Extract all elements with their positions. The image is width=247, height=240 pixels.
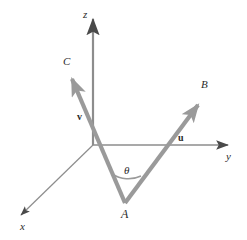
- diagram-canvas: [0, 0, 247, 240]
- vector-v-line: [72, 79, 125, 203]
- axis-group: [21, 19, 228, 215]
- axis-x-line: [21, 145, 93, 215]
- axis-label-z: z: [83, 9, 87, 20]
- vector-diagram-figure: z y x u B v C A θ: [0, 0, 247, 240]
- vector-u-line: [125, 105, 198, 203]
- angle-label-theta: θ: [124, 165, 129, 176]
- vector-label-v: v: [77, 112, 82, 122]
- vector-label-u: u: [178, 133, 184, 143]
- point-label-c: C: [63, 56, 70, 67]
- point-label-b: B: [201, 79, 208, 90]
- axis-label-y: y: [226, 151, 231, 162]
- point-label-a: A: [121, 208, 128, 220]
- axis-label-x: x: [20, 221, 25, 232]
